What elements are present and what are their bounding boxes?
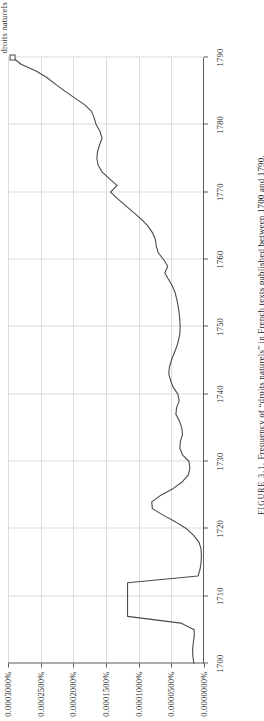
series-label: droits naturels	[0, 2, 9, 53]
y-axis-tick	[8, 663, 9, 667]
x-axis-label: 1700	[215, 654, 225, 672]
y-axis-label: 0.0003000%	[3, 671, 13, 716]
x-axis-tick	[204, 56, 208, 57]
x-axis-tick	[204, 460, 208, 461]
x-axis-label: 1780	[215, 115, 225, 133]
y-axis-tick	[139, 663, 140, 667]
y-axis-label: 0.0002500%	[36, 671, 46, 716]
x-axis-label: 1760	[215, 250, 225, 268]
x-axis-label: 1720	[215, 519, 225, 537]
caption-body: Frequency of “droits naturels” in French…	[256, 155, 264, 459]
y-axis-label: 0.0001500%	[101, 671, 111, 716]
x-axis-label: 1710	[215, 587, 225, 605]
figure-caption: FIGURE 3.1. Frequency of “droits naturel…	[256, 6, 264, 663]
plot-area: 0.0000000%0.0000500%0.0001000%0.0001500%…	[8, 57, 204, 663]
x-axis-tick	[204, 123, 208, 124]
x-axis-tick	[204, 662, 208, 663]
y-axis-tick	[171, 663, 172, 667]
x-axis-tick	[204, 191, 208, 192]
x-axis-label: 1750	[215, 317, 225, 335]
series-endpoint-marker	[10, 55, 15, 60]
y-axis-label: 0.0002000%	[68, 671, 78, 716]
x-axis-tick	[204, 527, 208, 528]
x-axis-label: 1740	[215, 385, 225, 403]
x-axis-tick	[204, 258, 208, 259]
rotated-figure-wrapper: 0.0000000%0.0000500%0.0001000%0.0001500%…	[0, 0, 264, 721]
y-axis-label: 0.0000500%	[166, 671, 176, 716]
x-axis-tick	[204, 595, 208, 596]
x-axis-tick	[204, 393, 208, 394]
y-axis-tick	[73, 663, 74, 667]
x-axis-label: 1790	[215, 48, 225, 66]
y-axis-label: 0.0001000%	[134, 671, 144, 716]
series-line-droits-naturels	[13, 57, 202, 663]
x-axis-label: 1770	[215, 183, 225, 201]
y-axis-label: 0.0000000%	[199, 671, 209, 716]
x-axis-tick	[204, 325, 208, 326]
series-plot	[8, 57, 204, 663]
x-axis-label: 1730	[215, 452, 225, 470]
y-axis-tick	[41, 663, 42, 667]
caption-figure-number: FIGURE 3.1.	[257, 461, 264, 514]
y-axis-tick	[106, 663, 107, 667]
y-axis-tick	[204, 663, 205, 667]
figure-canvas: 0.0000000%0.0000500%0.0001000%0.0001500%…	[0, 0, 264, 721]
